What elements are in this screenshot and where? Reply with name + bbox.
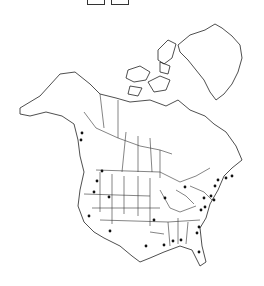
arctic-islands bbox=[126, 40, 176, 96]
greenland bbox=[178, 24, 242, 100]
north-america-map bbox=[0, 0, 264, 286]
